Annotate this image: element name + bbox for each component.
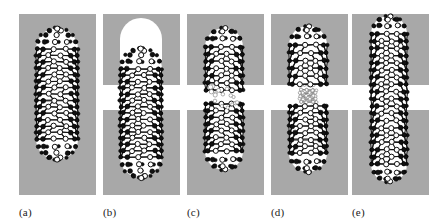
lower-fragment	[203, 101, 245, 172]
nanotube	[34, 26, 80, 162]
molecule-canvas	[187, 0, 264, 200]
upper-segment	[287, 24, 329, 87]
panel-b: (b)	[103, 0, 180, 220]
nanotube	[369, 14, 409, 184]
molecule-canvas	[271, 0, 348, 200]
nanotube-fracture-figure: (a)(b)(c)(d)(e)	[0, 0, 442, 220]
molecule-canvas	[352, 0, 429, 200]
panel-a: (a)	[19, 0, 96, 220]
panel-label-e: (e)	[352, 206, 365, 218]
panel-label-b: (b)	[103, 206, 116, 218]
molecule-canvas	[19, 0, 96, 200]
panel-label-d: (d)	[271, 206, 284, 218]
nanotube	[118, 46, 164, 181]
panel-label-a: (a)	[19, 206, 32, 218]
panel-label-c: (c)	[187, 206, 200, 218]
molecule-canvas	[103, 0, 180, 200]
panel-e: (e)	[352, 0, 429, 220]
panel-c: (c)	[187, 0, 264, 220]
panel-d: (d)	[271, 0, 348, 220]
upper-fragment	[203, 26, 245, 93]
lower-segment	[287, 103, 329, 174]
